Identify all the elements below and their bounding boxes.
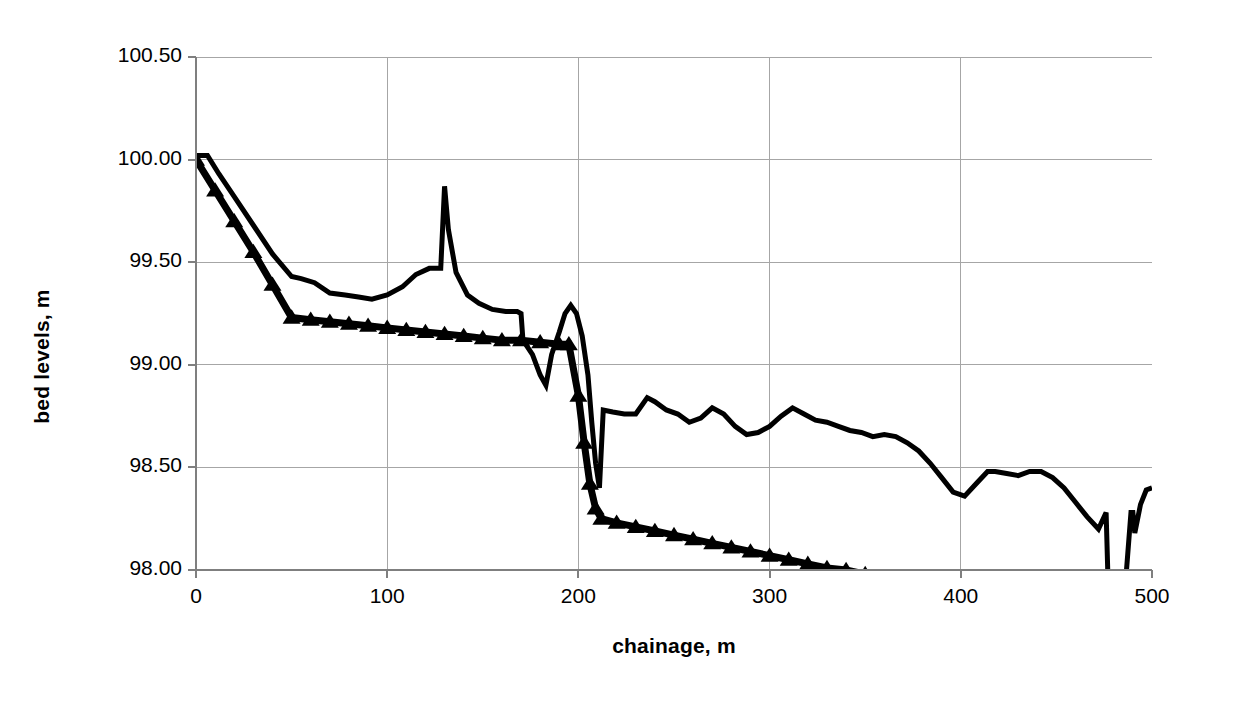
y-tick-label: 99.50 bbox=[72, 248, 182, 272]
series-marker-triangle bbox=[894, 574, 912, 588]
y-axis-title: bed levels, m bbox=[22, 0, 62, 713]
y-tick-label: 98.50 bbox=[72, 453, 182, 477]
chart-container: 98.0098.5099.0099.50100.00100.50 0100200… bbox=[0, 0, 1234, 713]
y-tick-label: 98.00 bbox=[72, 556, 182, 580]
series-marker-triangle bbox=[875, 570, 893, 584]
x-tick-label: 400 bbox=[921, 584, 1001, 608]
series-marker-triangle bbox=[575, 435, 593, 449]
x-axis-title: chainage, m bbox=[196, 634, 1152, 658]
series-line-0 bbox=[196, 156, 1152, 591]
tick-marks bbox=[188, 57, 1152, 578]
y-tick-label: 100.00 bbox=[72, 146, 182, 170]
x-tick-label: 100 bbox=[347, 584, 427, 608]
series-marker-triangle bbox=[569, 387, 587, 401]
data-series-layer bbox=[187, 151, 1152, 590]
gridlines bbox=[196, 57, 1152, 570]
x-tick-label: 500 bbox=[1112, 584, 1192, 608]
x-tick-label: 0 bbox=[156, 584, 236, 608]
y-tick-label: 99.00 bbox=[72, 351, 182, 375]
x-tick-label: 200 bbox=[538, 584, 618, 608]
axis-lines bbox=[196, 57, 1152, 570]
y-tick-label: 100.50 bbox=[72, 43, 182, 67]
series-marker-triangle bbox=[856, 566, 874, 580]
x-tick-label: 300 bbox=[730, 584, 810, 608]
